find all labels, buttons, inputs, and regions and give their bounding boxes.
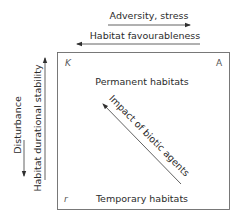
disturbance-arrow: Disturbance: [12, 96, 24, 176]
corner-k-label: K: [65, 58, 72, 68]
corner-r-label: r: [64, 194, 69, 204]
disturbance-label: Disturbance: [12, 96, 23, 154]
corner-a-label: A: [216, 58, 223, 68]
adversity-stress-arrow: Adversity, stress: [108, 10, 190, 25]
arrow-diagonal-icon: [103, 104, 181, 184]
habitat-durational-stability-arrow: Habitat durational stability: [32, 58, 45, 192]
habitat-favourableness-arrow: Habitat favourableness: [77, 30, 200, 44]
impact-biotic-agents-label: Impact of biotic agents: [107, 93, 192, 179]
temporary-habitats-label: Temporary habitats: [95, 193, 188, 204]
adversity-stress-label: Adversity, stress: [110, 10, 189, 21]
habitat-durational-stability-label: Habitat durational stability: [32, 64, 43, 192]
permanent-habitats-label: Permanent habitats: [95, 76, 188, 87]
habitat-favourableness-label: Habitat favourableness: [90, 30, 201, 41]
biotic-agents-arrow: Impact of biotic agents: [103, 93, 192, 184]
habitat-template-diagram: Adversity, stress Habitat favourableness…: [0, 0, 240, 219]
